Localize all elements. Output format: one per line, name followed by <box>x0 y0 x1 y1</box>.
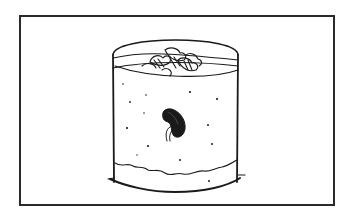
soil-line <box>115 160 237 175</box>
leaf-litter <box>142 48 202 76</box>
jar-illustration <box>0 0 353 220</box>
